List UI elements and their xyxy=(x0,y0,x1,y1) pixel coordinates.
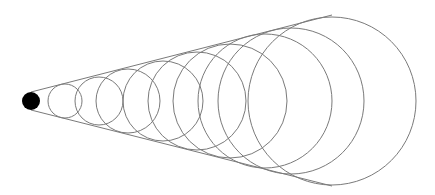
circles-group xyxy=(48,17,416,185)
diagram-canvas xyxy=(0,0,435,195)
inscribed-circle-4 xyxy=(123,61,203,141)
apex-dot-group xyxy=(22,92,40,110)
upper-tangent-line xyxy=(31,15,332,92)
inscribed-circle-5 xyxy=(148,52,246,150)
cone-circles-diagram: Sequence of circles growing in size, ins… xyxy=(0,0,435,195)
inscribed-circle-8 xyxy=(218,28,364,174)
inscribed-circle-1 xyxy=(48,84,82,118)
apex-dot xyxy=(22,92,40,110)
inscribed-circle-3 xyxy=(96,69,160,133)
